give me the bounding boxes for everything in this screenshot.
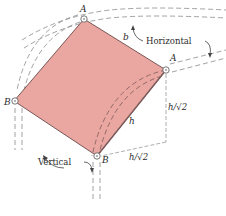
pin-top-a	[81, 16, 87, 22]
label-side-b: b	[123, 32, 129, 42]
square-plate-diagram: A A B B b Horizontal h h/√2 h/√2 Vertica…	[0, 0, 226, 216]
label-h-root2-horizontal: h/√2	[129, 152, 148, 162]
label-horizontal: Horizontal	[146, 36, 192, 46]
pin-bottom-b	[94, 153, 100, 159]
square-plate	[14, 19, 166, 156]
pin-left-b	[12, 98, 18, 104]
pin-right-a	[163, 67, 169, 73]
label-h-root2-vertical: h/√2	[168, 102, 187, 112]
label-pin-right-a: A	[169, 53, 177, 63]
label-pin-top-a: A	[79, 4, 87, 14]
label-vertical: Vertical	[37, 157, 71, 167]
label-pin-bottom-b: B	[101, 155, 109, 165]
label-diagonal-h: h	[129, 116, 135, 126]
label-pin-left-b: B	[3, 97, 11, 107]
